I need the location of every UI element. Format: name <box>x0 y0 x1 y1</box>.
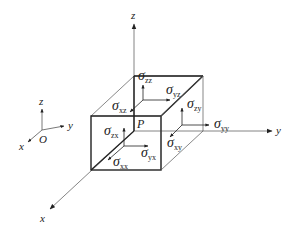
x-axis-label: x <box>39 212 45 224</box>
stress-labels: σzz σyz σxz σzy σzx σyy σyx σxy σxx P <box>104 68 229 171</box>
y-axis-label: y <box>275 124 281 136</box>
reference-axes: z y x O <box>18 95 73 152</box>
stress-zx: σzx <box>104 123 118 140</box>
stress-xy: σxy <box>167 135 182 152</box>
ref-y-label: y <box>67 119 73 131</box>
stress-xz: σxz <box>112 98 127 115</box>
stress-zy: σzy <box>187 96 201 113</box>
point-p-label: P <box>136 117 145 131</box>
stress-yy: σyy <box>214 116 229 133</box>
ref-z-label: z <box>38 95 44 107</box>
ref-origin-label: O <box>39 133 47 145</box>
stress-zz: σzz <box>138 68 152 85</box>
z-axis-label: z <box>130 9 136 21</box>
stress-xx: σxx <box>113 154 128 171</box>
stress-diagram: z y x O z y x <box>0 0 294 231</box>
stress-yx: σyx <box>141 145 156 162</box>
ref-y-axis <box>42 126 64 130</box>
ref-x-label: x <box>18 140 24 152</box>
stress-yz: σyz <box>166 82 181 99</box>
